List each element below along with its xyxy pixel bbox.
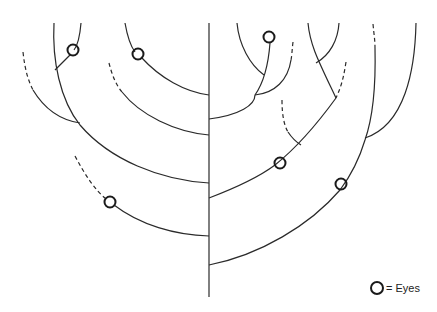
left-branch-3 [114, 205, 209, 236]
eye-icon [264, 32, 275, 43]
right-outer-stem [365, 48, 375, 140]
left-branch-upper-lower [141, 57, 209, 95]
left-lineage [33, 90, 80, 123]
right-twig-right [255, 60, 291, 95]
right-outer-dashed [373, 24, 375, 48]
left-branch-2 [122, 92, 209, 135]
right-middle-dashed [336, 62, 346, 98]
legend: = Eyes [370, 281, 420, 295]
right-twig-dashed [291, 42, 293, 60]
right-branch-outer [209, 140, 365, 265]
left-twig-eye-join [55, 55, 70, 70]
eye-icon [133, 49, 144, 60]
right-outermost [365, 23, 416, 138]
left-dashed-branch-2 [109, 63, 122, 92]
right-branch-middle [209, 98, 336, 198]
left-branch-upper [125, 23, 135, 52]
right-upper-twig [316, 23, 339, 63]
eye-icon [68, 45, 79, 56]
eye-legend-icon [370, 281, 384, 295]
right-branch-upper [209, 43, 270, 119]
left-dashed-branch-3 [75, 156, 106, 199]
right-middle-twig [308, 23, 336, 98]
right-twig-left [237, 23, 264, 75]
eye-icon [105, 197, 116, 208]
right-inner-dashed [282, 100, 288, 132]
legend-label: = Eyes [386, 282, 420, 294]
tree-diagram [0, 0, 437, 312]
right-inner-twig [288, 132, 301, 145]
left-dashed-lineage [23, 52, 33, 90]
eye-icon [275, 158, 286, 169]
